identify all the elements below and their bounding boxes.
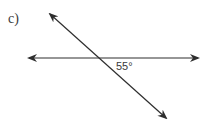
transversal-line: [50, 14, 166, 118]
angle-label: 55°: [116, 60, 133, 72]
intersecting-lines-diagram: 55°: [0, 0, 206, 134]
